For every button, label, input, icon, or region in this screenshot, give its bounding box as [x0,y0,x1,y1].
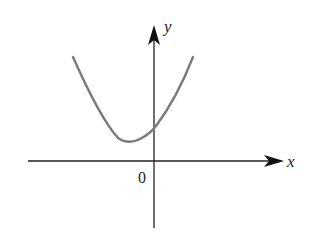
parabola-curve [73,57,193,142]
y-axis-label: y [162,17,172,36]
x-axis-label: x [286,152,295,171]
graph-canvas: y x 0 [0,0,309,236]
origin-label: 0 [138,169,146,186]
